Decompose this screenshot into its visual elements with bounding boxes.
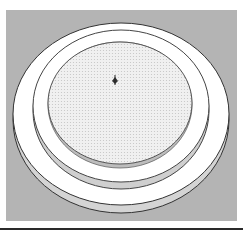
status-divider: [0, 228, 243, 230]
model-canvas[interactable]: [6, 10, 237, 221]
inner-disc[interactable]: [48, 42, 192, 168]
model-viewport[interactable]: [6, 10, 237, 221]
